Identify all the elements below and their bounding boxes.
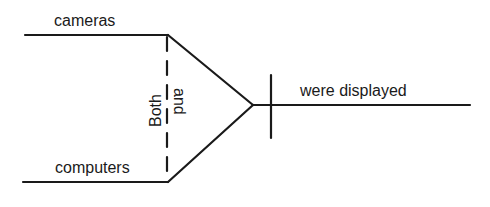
subject-label-computers: computers	[55, 159, 130, 176]
predicate-label: were displayed	[299, 82, 407, 99]
conjunction-label-both: Both	[147, 94, 164, 127]
conjunction-label-and: and	[171, 88, 188, 115]
subject-label-cameras: cameras	[54, 12, 115, 29]
sentence-diagram: cameras computers Both and were displaye…	[0, 0, 490, 207]
fork-lower-branch	[168, 105, 253, 182]
